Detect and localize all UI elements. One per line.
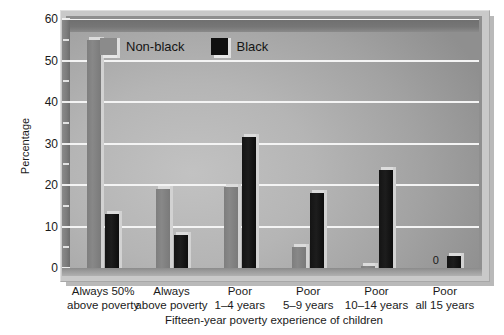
bar-black (447, 256, 461, 268)
y-axis-major-tick (62, 226, 70, 228)
bar-non-black (292, 247, 306, 268)
legend-swatch-black-icon (211, 38, 228, 55)
y-axis-major-tick (62, 184, 70, 186)
y-axis-spine (62, 19, 70, 268)
legend-label-black: Black (237, 39, 269, 54)
bar-black (105, 214, 119, 268)
bar-non-black (87, 40, 101, 268)
y-axis-minor-tick (63, 163, 69, 165)
plot-area: 0 (69, 19, 479, 268)
bar-black (174, 235, 188, 268)
x-axis-category-label: Poorall 15 years (403, 284, 487, 312)
y-axis-major-tick (62, 101, 70, 103)
x-axis-category-labels: Always 50%above povertyAlwaysabove pover… (69, 284, 479, 318)
plot-floor (62, 268, 482, 276)
y-axis-tick-label: 10 (8, 221, 58, 233)
legend-item-black: Black (211, 38, 269, 55)
bar-black (310, 193, 324, 268)
y-axis-tick-label: 0 (8, 262, 58, 274)
x-axis-category-label-line: Poor (403, 284, 487, 298)
y-axis-minor-tick (63, 39, 69, 41)
gridline (69, 19, 479, 20)
gridline (69, 226, 479, 228)
y-axis-major-tick (62, 143, 70, 145)
bar-non-black (156, 189, 170, 268)
y-axis-tick-label: 40 (8, 96, 58, 108)
y-axis-tick-label: 30 (8, 138, 58, 150)
y-axis-minor-tick (63, 246, 69, 248)
y-axis-title: Percentage (19, 91, 31, 201)
gridline (69, 184, 479, 186)
x-axis-category-label-line: all 15 years (403, 298, 487, 312)
x-axis-title: Fifteen-year poverty experience of child… (69, 314, 479, 326)
y-axis-tick-label: 20 (8, 179, 58, 191)
y-axis-minor-tick (63, 122, 69, 124)
bar-chart-figure: 0 0102030405060 Percentage Non-black Bla… (0, 0, 504, 335)
gridline (69, 101, 479, 103)
plot-ceiling (69, 19, 479, 32)
y-axis-minor-tick (63, 205, 69, 207)
legend-label-non-black: Non-black (126, 39, 185, 54)
y-axis-tick-label: 60 (8, 13, 58, 25)
y-axis-major-tick (62, 18, 70, 20)
bar-non-black (224, 187, 238, 268)
chart-legend: Non-black Black (100, 38, 294, 55)
bar-black (379, 170, 393, 268)
gridline (69, 143, 479, 145)
y-axis-tick-label: 50 (8, 55, 58, 67)
legend-swatch-non-black-icon (100, 38, 117, 55)
y-axis-minor-tick (63, 80, 69, 82)
legend-item-non-black: Non-black (100, 38, 185, 55)
bar-black (242, 137, 256, 268)
gridline (69, 60, 479, 62)
y-axis-major-tick (62, 60, 70, 62)
